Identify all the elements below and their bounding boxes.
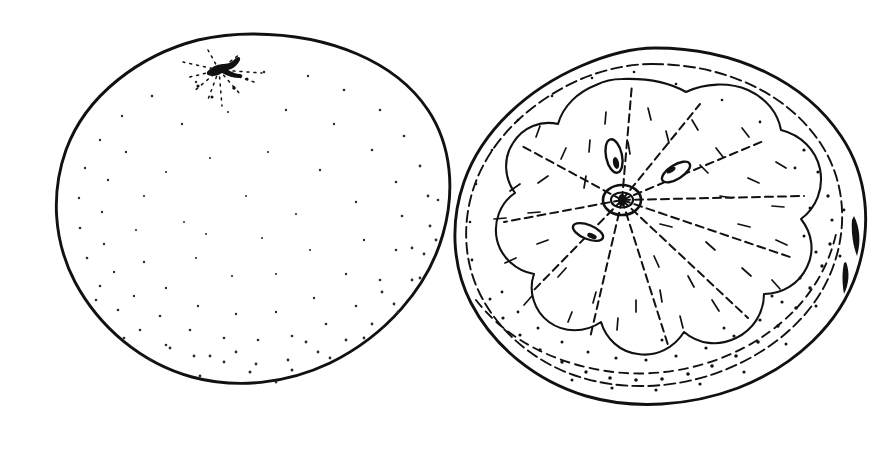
orange-plate-svg [0,0,886,472]
illustration-canvas [0,0,886,472]
